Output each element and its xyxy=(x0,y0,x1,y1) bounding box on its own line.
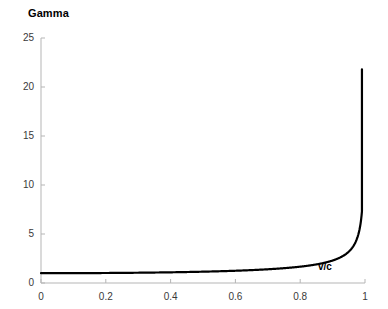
y-axis-tick-label: 5 xyxy=(8,228,34,239)
y-axis-ticks xyxy=(41,38,45,283)
x-axis-tick-label: 0.8 xyxy=(285,291,315,302)
y-axis-tick-label: 0 xyxy=(8,277,34,288)
gamma-curve xyxy=(41,69,362,273)
x-axis-tick-label: 0.6 xyxy=(220,291,250,302)
y-axis-tick-label: 10 xyxy=(8,179,34,190)
x-axis-label: v/c xyxy=(318,261,332,272)
x-axis-tick-label: 0.4 xyxy=(156,291,186,302)
x-axis-ticks xyxy=(41,279,365,283)
y-axis-tick-label: 25 xyxy=(8,32,34,43)
gamma-chart: Gamma 0510152025 00.20.40.60.81 v/c xyxy=(0,0,388,309)
x-axis-tick-label: 0.2 xyxy=(91,291,121,302)
y-axis-tick-label: 20 xyxy=(8,81,34,92)
x-axis-tick-label: 0 xyxy=(26,291,56,302)
x-axis-tick-label: 1 xyxy=(350,291,380,302)
y-axis-tick-label: 15 xyxy=(8,130,34,141)
